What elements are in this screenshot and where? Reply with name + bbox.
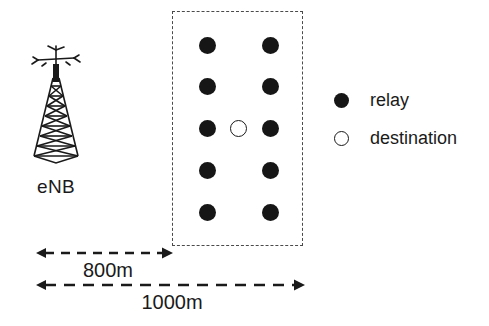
relay-node bbox=[199, 37, 216, 54]
network-topology-diagram: eNB relay destination bbox=[0, 0, 489, 326]
relay-node bbox=[199, 204, 216, 221]
legend-item-relay: relay bbox=[334, 84, 484, 116]
relay-node bbox=[199, 120, 216, 137]
enb-label: eNB bbox=[18, 176, 94, 198]
legend-item-destination: destination bbox=[334, 122, 484, 154]
legend-marker-wrap bbox=[334, 131, 364, 146]
relay-node bbox=[199, 78, 216, 95]
dimension-1000m-label: 1000m bbox=[112, 291, 232, 314]
legend-label-destination: destination bbox=[364, 128, 457, 149]
legend-marker-wrap bbox=[334, 93, 364, 108]
destination-node bbox=[230, 120, 247, 137]
relay-node bbox=[199, 162, 216, 179]
filled-circle-icon bbox=[334, 93, 349, 108]
cell-tower-icon bbox=[18, 44, 94, 164]
relay-node bbox=[262, 204, 279, 221]
legend-label-relay: relay bbox=[364, 90, 409, 111]
enb-group bbox=[18, 44, 94, 164]
relay-node bbox=[262, 162, 279, 179]
relay-node bbox=[262, 120, 279, 137]
relay-node bbox=[262, 37, 279, 54]
hollow-circle-icon bbox=[334, 131, 349, 146]
relay-node bbox=[262, 78, 279, 95]
legend: relay destination bbox=[334, 84, 484, 160]
